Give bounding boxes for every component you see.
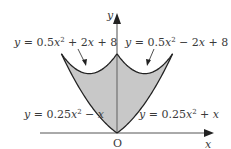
label-upper-right: y = 0.5x2 − 2x + 8	[124, 36, 228, 49]
label-lower-left: y = 0.25x2 − x	[23, 108, 105, 121]
pointer-upper-left-arrowhead	[82, 59, 87, 66]
label-lower-right: y = 0.25x2 + x	[138, 108, 220, 121]
region-diagram: y x O y = 0.5x2 + 2x + 8 y = 0.5x2 − 2x …	[0, 0, 231, 149]
y-axis-label: y	[106, 9, 114, 22]
label-upper-left: y = 0.5x2 + 2x + 8	[13, 36, 117, 49]
x-axis-label: x	[205, 138, 212, 149]
origin-label: O	[113, 137, 122, 149]
y-axis-arrow	[113, 13, 121, 24]
pointer-upper-right-arrowhead	[146, 59, 151, 66]
x-axis-arrow	[204, 129, 214, 137]
